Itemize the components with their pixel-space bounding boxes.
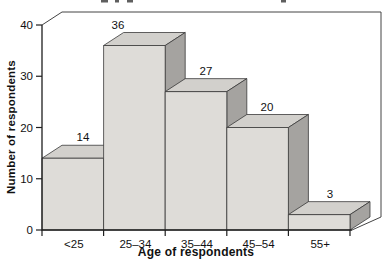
y-tick-label: 40 — [20, 19, 33, 31]
bar-value-label: 36 — [112, 19, 125, 31]
x-tick-label: <25 — [64, 238, 84, 250]
bar-value-label: 20 — [261, 101, 274, 113]
y-axis-title: Number of respondents — [5, 60, 17, 194]
histogram-figure: 143627203010203040<2525–3435–4445–5455+ … — [0, 0, 385, 269]
x-axis-title: Age of respondents — [138, 245, 254, 259]
bar-value-label: 3 — [327, 188, 333, 200]
y-tick-label: 10 — [20, 173, 33, 185]
bar-front-face — [165, 92, 227, 230]
y-tick-label: 30 — [20, 70, 33, 82]
x-tick-label: 55+ — [310, 238, 330, 250]
bar-value-label: 14 — [77, 131, 90, 143]
y-tick-label: 0 — [27, 224, 33, 236]
cropped-title-fragments — [101, 0, 108, 3]
cropped-title-fragments — [115, 0, 119, 3]
bar-front-face — [227, 128, 289, 231]
histogram-canvas: 143627203010203040<2525–3435–4445–5455+ — [0, 0, 385, 269]
cropped-title-fragments — [281, 0, 286, 3]
bar-front-face — [42, 158, 104, 230]
bar-front-face — [104, 46, 166, 231]
bar-front-face — [288, 215, 350, 230]
y-tick-label: 20 — [20, 122, 33, 134]
cropped-title-fragments — [127, 0, 133, 3]
bar-value-label: 27 — [200, 65, 213, 77]
